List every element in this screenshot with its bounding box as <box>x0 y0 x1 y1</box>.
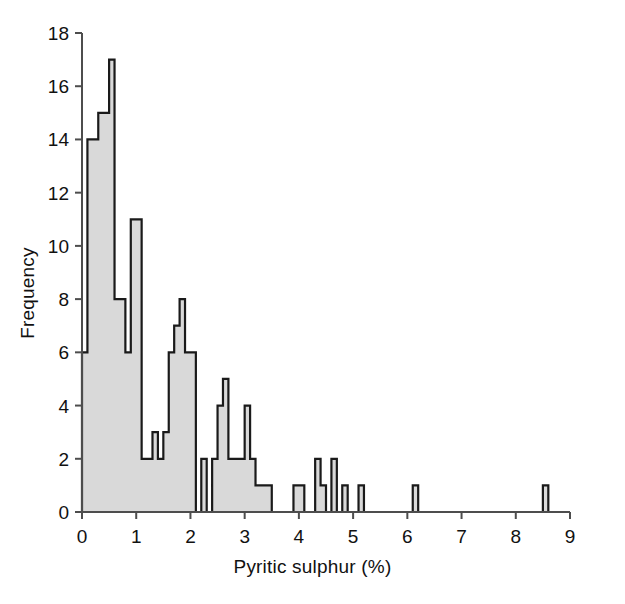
x-tick-label: 9 <box>565 526 576 547</box>
y-tick-label: 0 <box>58 502 69 523</box>
y-tick-label: 16 <box>48 76 69 97</box>
x-tick-label: 6 <box>402 526 413 547</box>
x-tick-label: 0 <box>77 526 88 547</box>
y-tick-label: 6 <box>58 342 69 363</box>
chart-axes <box>75 33 570 519</box>
y-tick-label: 14 <box>48 129 70 150</box>
x-tick-label: 2 <box>185 526 196 547</box>
x-tick-labels: 0123456789 <box>77 526 576 547</box>
histogram-figure: 0123456789 024681012141618 Pyritic sulph… <box>0 0 625 604</box>
y-axis-title: Frequency <box>17 193 39 393</box>
x-tick-label: 8 <box>510 526 521 547</box>
y-tick-labels: 024681012141618 <box>48 23 70 523</box>
x-axis-title: Pyritic sulphur (%) <box>0 556 625 578</box>
y-tick-label: 2 <box>58 449 69 470</box>
chart-canvas: 0123456789 024681012141618 <box>0 0 625 604</box>
y-tick-label: 18 <box>48 23 69 44</box>
x-tick-label: 5 <box>348 526 359 547</box>
y-tick-label: 8 <box>58 289 69 310</box>
y-tick-label: 12 <box>48 183 69 204</box>
x-tick-label: 4 <box>294 526 305 547</box>
x-tick-label: 1 <box>131 526 142 547</box>
x-tick-label: 7 <box>456 526 467 547</box>
y-tick-label: 4 <box>58 396 69 417</box>
x-tick-label: 3 <box>239 526 250 547</box>
y-tick-label: 10 <box>48 236 69 257</box>
histogram-bars <box>82 60 548 512</box>
